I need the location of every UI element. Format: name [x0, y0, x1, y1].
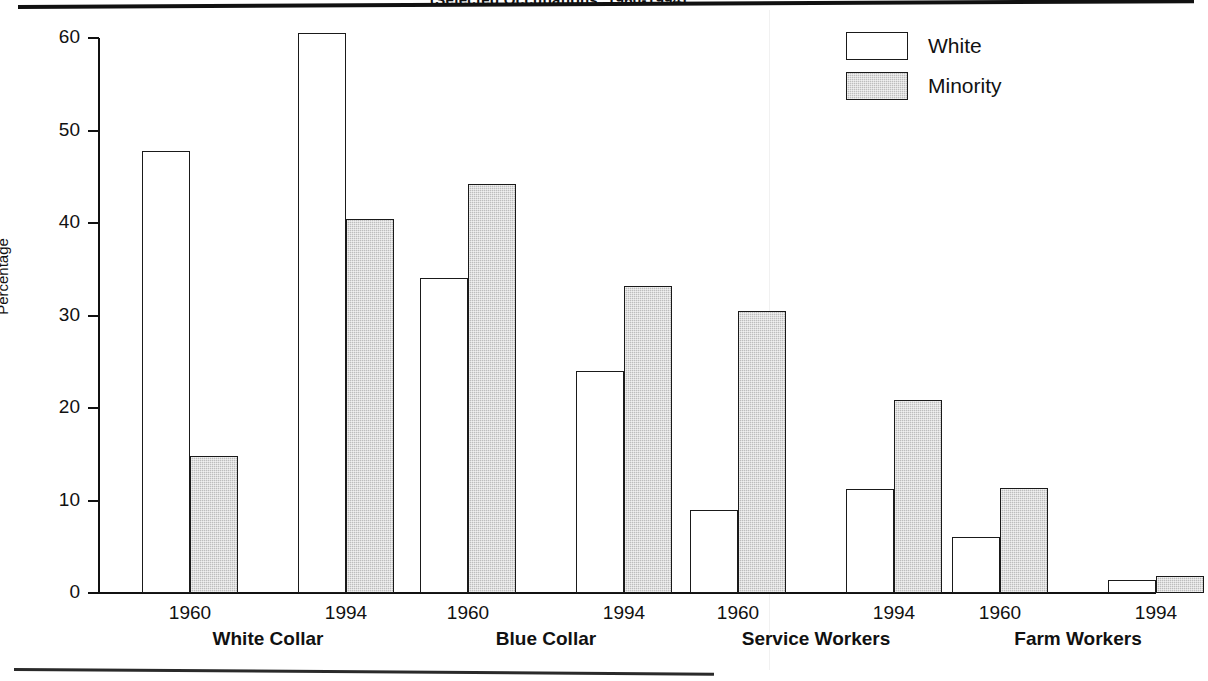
x-group-label: White Collar [138, 628, 398, 650]
x-group-label: Service Workers [686, 628, 946, 650]
bar-white-1994 [576, 371, 624, 593]
y-axis-title: Percentage [0, 238, 11, 315]
bar-minority-1960 [738, 311, 786, 593]
x-year-label: 1994 [854, 602, 934, 624]
bar-minority-1960 [468, 184, 516, 593]
x-year-label: 1960 [698, 602, 778, 624]
bar-minority-1960 [190, 456, 238, 593]
y-tick-label: 60 [26, 26, 80, 48]
x-year-label: 1960 [428, 602, 508, 624]
y-tick-label: 50 [26, 119, 80, 141]
chart-legend: WhiteMinority [846, 28, 1076, 108]
legend-row: Minority [846, 68, 1076, 108]
plot-area [98, 38, 1154, 593]
legend-label: White [928, 34, 982, 58]
bar-white-1994 [298, 33, 346, 593]
bar-white-1960 [690, 510, 738, 593]
bar-white-1994 [1108, 580, 1156, 593]
white-swatch [846, 32, 908, 60]
bar-minority-1994 [624, 286, 672, 593]
bar-white-1960 [142, 151, 190, 593]
bar-minority-1994 [1156, 576, 1204, 593]
x-year-label: 1960 [150, 602, 230, 624]
y-tick-label: 30 [26, 304, 80, 326]
bar-white-1960 [952, 537, 1000, 593]
y-tick-label: 20 [26, 396, 80, 418]
legend-label: Minority [928, 74, 1002, 98]
x-year-label: 1960 [960, 602, 1040, 624]
minority-swatch [846, 72, 908, 100]
bar-white-1960 [420, 278, 468, 593]
bar-minority-1994 [346, 219, 394, 593]
bottom-rule [14, 668, 714, 676]
x-group-label: Farm Workers [948, 628, 1208, 650]
legend-row: White [846, 28, 1076, 68]
x-year-label: 1994 [306, 602, 386, 624]
bar-white-1994 [846, 489, 894, 593]
y-tick-label: 0 [26, 581, 80, 603]
x-year-label: 1994 [1116, 602, 1196, 624]
y-tick-label: 10 [26, 489, 80, 511]
top-rule [18, 0, 1194, 9]
x-year-label: 1994 [584, 602, 664, 624]
x-group-label: Blue Collar [416, 628, 676, 650]
y-tick-label: 40 [26, 211, 80, 233]
bar-minority-1994 [894, 400, 942, 593]
bar-minority-1960 [1000, 488, 1048, 593]
